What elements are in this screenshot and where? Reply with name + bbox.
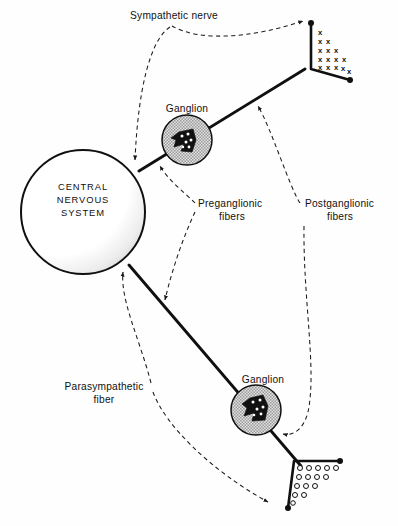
svg-text:x: x: [318, 46, 323, 55]
preganglionic-fibers-callout: Preganglionic fibers: [160, 166, 262, 300]
postganglionic-label-line-1: Postganglionic: [305, 198, 374, 209]
parasympathetic-nerve-line: [129, 265, 301, 466]
svg-text:x: x: [326, 37, 331, 46]
sympathetic-nerve-line: [139, 69, 305, 171]
svg-text:x: x: [334, 46, 339, 55]
svg-text:x: x: [334, 63, 339, 72]
central-nervous-system: CENTRAL NERVOUS SYSTEM: [21, 150, 145, 274]
parasympathetic-label-line-1: Parasympathetic: [65, 381, 144, 392]
svg-text:x: x: [347, 67, 352, 76]
parasympathetic-leader-upper: [123, 272, 151, 383]
postganglionic-leader-lower: [283, 226, 311, 434]
parasympathetic-ganglion: Ganglion: [231, 374, 284, 435]
cns-label-line-1: CENTRAL: [58, 181, 108, 192]
postganglionic-fibers-callout: Postganglionic fibers: [258, 106, 374, 434]
sympathetic-nerve-leader-right: [172, 21, 303, 36]
svg-text:x: x: [342, 55, 347, 64]
cns-label-line-2: NERVOUS: [57, 194, 110, 205]
sympathetic-nerve-label: Sympathetic nerve: [130, 10, 218, 21]
preganglionic-label-line-2: fibers: [219, 211, 245, 222]
effector-upper-endcap-top: [308, 20, 314, 26]
svg-text:x: x: [341, 64, 346, 73]
sympathetic-ganglion: Ganglion: [162, 103, 212, 165]
effector-upper-endcap-right: [347, 77, 353, 83]
diagram-canvas: CENTRAL NERVOUS SYSTEM Ganglion: [0, 0, 398, 526]
cns-label-line-3: SYSTEM: [61, 207, 105, 218]
svg-text:x: x: [326, 46, 331, 55]
svg-text:x: x: [318, 37, 323, 46]
postganglionic-leader-upper: [258, 106, 300, 203]
svg-text:x: x: [318, 28, 323, 37]
sympathetic-effector-organ: x xx xxx xxxx xxxxx: [308, 20, 353, 83]
svg-text:x: x: [326, 63, 331, 72]
ganglion-upper-label: Ganglion: [166, 103, 208, 114]
parasympathetic-effector-organ: [285, 458, 343, 511]
svg-text:x: x: [318, 63, 323, 72]
effector-upper-x-marks: x xx xxx xxxx xxxxx: [318, 28, 352, 76]
parasympathetic-nerve-trunk: [129, 265, 301, 466]
preganglionic-label-line-1: Preganglionic: [198, 198, 262, 209]
ganglion-lower-label: Ganglion: [242, 374, 284, 385]
effector-lower-endcap-bottom: [285, 505, 291, 511]
preganglionic-leader-upper: [160, 166, 195, 203]
effector-lower-circle-marks: [291, 466, 339, 506]
postganglionic-label-line-2: fibers: [327, 211, 353, 222]
autonomic-nervous-system-diagram: CENTRAL NERVOUS SYSTEM Ganglion: [0, 0, 398, 526]
effector-lower-endcap-right: [337, 458, 343, 464]
sympathetic-nerve-trunk: [139, 69, 305, 171]
parasympathetic-label-line-2: fiber: [94, 394, 115, 405]
preganglionic-leader-lower: [165, 212, 195, 300]
